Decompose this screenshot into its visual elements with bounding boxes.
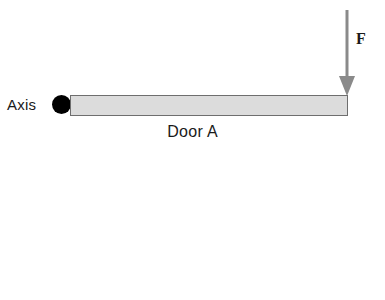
door-b-panel: F Axis Door B: [0, 150, 385, 300]
door-a-bar: [70, 95, 348, 116]
door-a-axis-label: Axis: [7, 96, 36, 113]
door-a-force-arrow-icon: [335, 10, 361, 98]
door-a-caption: Door A: [0, 123, 385, 141]
physics-torque-diagram: F Axis Door A F Axis Door B: [0, 0, 385, 300]
door-a-force-label: F: [356, 30, 366, 48]
door-a-panel: F Axis Door A: [0, 0, 385, 150]
door-a-axis-pivot-dot: [52, 95, 71, 114]
